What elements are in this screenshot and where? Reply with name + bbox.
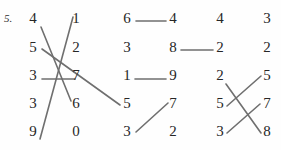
seg-3-to-7c[interactable]: [227, 104, 260, 133]
digit-group-1-left-3[interactable]: 3: [26, 96, 40, 111]
digit-group-2-right-1[interactable]: 8: [166, 40, 180, 55]
digit-group-3-left-4[interactable]: 3: [213, 124, 227, 139]
seg-5-to-5b[interactable]: [227, 76, 261, 106]
digit-group-1-left-1[interactable]: 5: [26, 40, 40, 55]
seg-2-to-8[interactable]: [226, 84, 261, 133]
seg-4-to-6[interactable]: [41, 27, 71, 101]
digit-group-3-left-0[interactable]: 4: [213, 11, 227, 26]
digit-group-3-left-2[interactable]: 2: [213, 68, 227, 83]
digit-group-1-right-0[interactable]: 1: [69, 11, 83, 26]
connection-lines-layer: [0, 0, 281, 150]
digit-group-2-right-2[interactable]: 9: [166, 68, 180, 83]
digit-group-1-right-3[interactable]: 6: [69, 96, 83, 111]
digit-group-3-right-0[interactable]: 3: [260, 11, 274, 26]
digit-group-3-right-2[interactable]: 5: [260, 68, 274, 83]
digit-group-3-right-1[interactable]: 2: [260, 40, 274, 55]
digit-group-2-left-0[interactable]: 6: [120, 11, 134, 26]
worksheet-canvas: 5. 453391276063153489724225332578: [0, 0, 281, 150]
digit-group-1-left-2[interactable]: 3: [26, 68, 40, 83]
digit-group-2-left-1[interactable]: 3: [120, 40, 134, 55]
digit-group-2-right-3[interactable]: 7: [166, 96, 180, 111]
digit-group-3-right-4[interactable]: 8: [260, 124, 274, 139]
digit-group-2-left-2[interactable]: 1: [120, 68, 134, 83]
digit-group-2-right-0[interactable]: 4: [166, 11, 180, 26]
digit-group-1-right-4[interactable]: 0: [69, 124, 83, 139]
digit-group-3-left-1[interactable]: 2: [213, 40, 227, 55]
digit-group-2-left-4[interactable]: 3: [120, 124, 134, 139]
digit-group-1-right-2[interactable]: 7: [69, 68, 83, 83]
digit-group-2-right-4[interactable]: 2: [166, 124, 180, 139]
question-number: 5.: [4, 12, 12, 24]
seg-3-to-7b[interactable]: [136, 103, 168, 132]
digit-group-3-right-3[interactable]: 7: [260, 96, 274, 111]
digit-group-3-left-3[interactable]: 5: [213, 96, 227, 111]
digit-group-2-left-3[interactable]: 5: [120, 96, 134, 111]
digit-group-1-left-0[interactable]: 4: [26, 11, 40, 26]
digit-group-1-right-1[interactable]: 2: [69, 40, 83, 55]
digit-group-1-left-4[interactable]: 9: [26, 124, 40, 139]
